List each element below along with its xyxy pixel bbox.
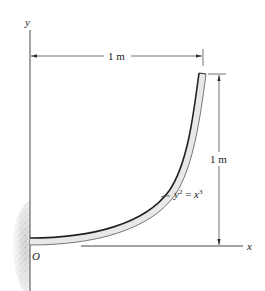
- curved-tube: [30, 73, 206, 245]
- origin-label: O: [32, 250, 40, 262]
- diagram-canvas: y x O 1 m 1 m y2 = x3: [0, 0, 265, 291]
- horizontal-dimension-label: 1 m: [108, 50, 125, 62]
- wall-support: [14, 200, 30, 291]
- x-axis-label: x: [246, 240, 252, 252]
- y-axis-label: y: [24, 16, 30, 28]
- vertical-dimension-label: 1 m: [210, 153, 227, 165]
- curve-equation: y2 = x3: [173, 188, 203, 200]
